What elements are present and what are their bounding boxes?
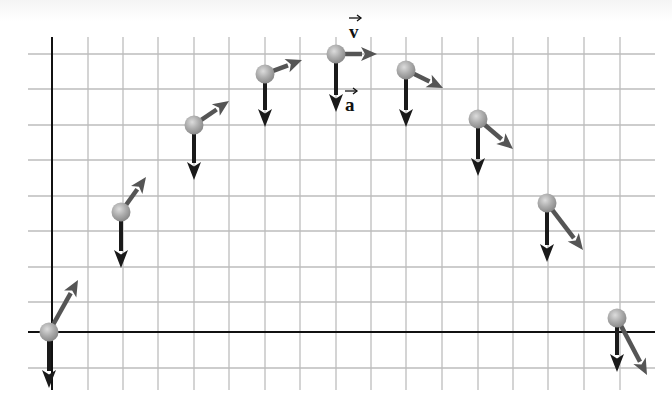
acceleration-arrow-head-icon <box>610 354 624 372</box>
acceleration-arrow-head-icon <box>114 250 128 268</box>
velocity-arrow <box>552 209 583 250</box>
vector-arrow-icon <box>345 87 355 95</box>
projectile-ball <box>327 45 346 64</box>
velocity-arrow-shaft <box>413 73 429 81</box>
velocity-label-text: v <box>349 21 359 42</box>
velocity-arrow-shaft <box>484 124 502 139</box>
velocity-label: v <box>349 22 359 41</box>
acceleration-label-text: a <box>345 94 355 115</box>
velocity-arrow-shaft <box>53 293 71 325</box>
velocity-arrow <box>126 177 146 205</box>
velocity-arrow-shaft <box>552 209 574 238</box>
velocity-arrow-shaft <box>126 189 138 205</box>
acceleration-arrow-head-icon <box>540 244 554 262</box>
projectile-ball <box>469 110 488 129</box>
acceleration-label: a <box>345 95 355 114</box>
projectile-ball <box>40 323 59 342</box>
projectile-ball <box>256 65 275 84</box>
velocity-arrow <box>484 124 513 149</box>
projectile-ball <box>397 61 416 80</box>
velocity-arrow <box>413 73 443 88</box>
projectile-diagram <box>0 0 672 417</box>
projectile-ball <box>538 194 557 213</box>
velocity-arrow <box>272 59 302 72</box>
acceleration-arrow-head-icon <box>42 370 56 388</box>
projectile-ball <box>112 203 131 222</box>
velocity-arrow <box>201 101 229 120</box>
velocity-arrow-shaft <box>621 325 640 362</box>
vector-arrow-icon <box>349 14 359 22</box>
velocity-arrow <box>344 47 377 61</box>
velocity-arrow-shaft <box>272 65 287 71</box>
figure-page: v a <box>0 0 672 417</box>
projectile-ball <box>608 309 627 328</box>
projectile-ball <box>185 116 204 135</box>
velocity-arrow-shaft <box>201 109 217 120</box>
